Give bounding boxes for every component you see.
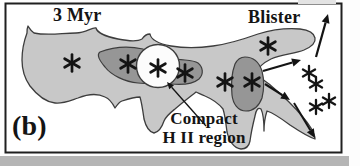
blister-label: Blister — [248, 7, 300, 28]
age-label: 3 Myr — [53, 5, 101, 26]
scan-smudge — [298, 0, 336, 4]
scan-strip — [0, 156, 349, 166]
panel-label: (b) — [12, 110, 47, 142]
compact-hii-label: Compact H II region — [146, 109, 262, 147]
compact-hii-label-line2: H II region — [146, 128, 262, 147]
compact-hii-label-line1: Compact — [146, 109, 262, 128]
figure-panel-b: 3 Myr Blister (b) Compact H II region — [0, 0, 360, 166]
